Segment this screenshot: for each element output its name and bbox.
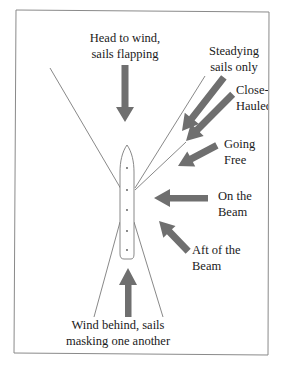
label-on-the-beam-line2: Beam	[218, 204, 252, 220]
points-of-sail-diagram: Head to wind, sails flapping Steadying s…	[0, 0, 281, 378]
label-close-hauled-line2: Hauled	[236, 98, 268, 114]
arrow-wind-behind-icon	[119, 268, 137, 317]
label-aft-of-beam: Aft of the Beam	[192, 242, 241, 274]
label-aft-of-beam-line2: Beam	[192, 258, 241, 274]
running-boundary-left	[94, 222, 120, 317]
label-wind-behind-line1: Wind behind, sails	[66, 317, 170, 333]
label-going-free-line2: Free	[224, 152, 255, 168]
label-going-free: Going Free	[224, 136, 255, 168]
running-boundary-right	[134, 222, 163, 317]
arrow-head-to-wind-icon	[116, 65, 134, 122]
label-close-hauled: Close- Hauled	[236, 82, 268, 114]
boat-icon	[120, 145, 134, 259]
label-steadying: Steadying sails only	[209, 43, 259, 75]
label-steadying-line2: sails only	[209, 59, 259, 75]
arrow-going-free-icon	[174, 138, 221, 174]
label-aft-of-beam-line1: Aft of the	[192, 242, 241, 258]
label-on-the-beam-line1: On the	[218, 188, 252, 204]
label-close-hauled-line1: Close-	[236, 82, 268, 98]
label-on-the-beam: On the Beam	[218, 188, 252, 220]
label-going-free-line1: Going	[224, 136, 255, 152]
label-head-to-wind: Head to wind, sails flapping	[90, 30, 160, 62]
label-wind-behind: Wind behind, sails masking one another	[66, 317, 170, 349]
arrow-aft-of-beam-icon	[153, 215, 194, 257]
no-go-boundary-left	[50, 68, 121, 189]
label-head-to-wind-line2: sails flapping	[90, 46, 160, 62]
label-head-to-wind-line1: Head to wind,	[90, 30, 160, 46]
label-steadying-line1: Steadying	[209, 43, 259, 59]
arrow-on-the-beam-icon	[154, 189, 208, 207]
label-wind-behind-line2: masking one another	[66, 333, 170, 349]
